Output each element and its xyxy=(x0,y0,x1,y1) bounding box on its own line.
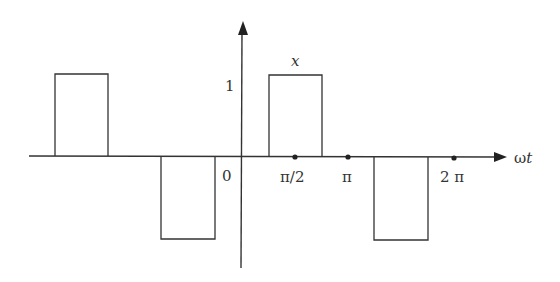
y-axis xyxy=(241,30,242,268)
pulse-positive-2 xyxy=(269,75,322,157)
tick-label-pi-half: π/2 xyxy=(280,168,304,186)
y-axis-arrow-icon xyxy=(238,21,248,35)
tick-label-pi: π xyxy=(342,168,352,186)
tick-dot-pi-half xyxy=(292,154,297,159)
y-axis-label: x xyxy=(291,52,300,70)
tick-label-two-pi: 2 π xyxy=(440,168,464,186)
tick-label-zero: 0 xyxy=(222,167,232,185)
tick-label-one: 1 xyxy=(225,77,235,95)
x-axis-arrow-icon xyxy=(494,152,507,162)
tick-dot-pi xyxy=(345,154,350,159)
x-axis-label: ωt xyxy=(514,149,533,167)
pulse-negative-1 xyxy=(161,157,215,239)
x-axis xyxy=(29,156,500,157)
square-wave-diagram: x 1 0 π/2 π 2 π ωt xyxy=(0,0,560,282)
pulse-positive-1 xyxy=(55,74,108,156)
pulse-negative-2 xyxy=(374,157,428,240)
tick-dot-two-pi xyxy=(451,155,456,160)
